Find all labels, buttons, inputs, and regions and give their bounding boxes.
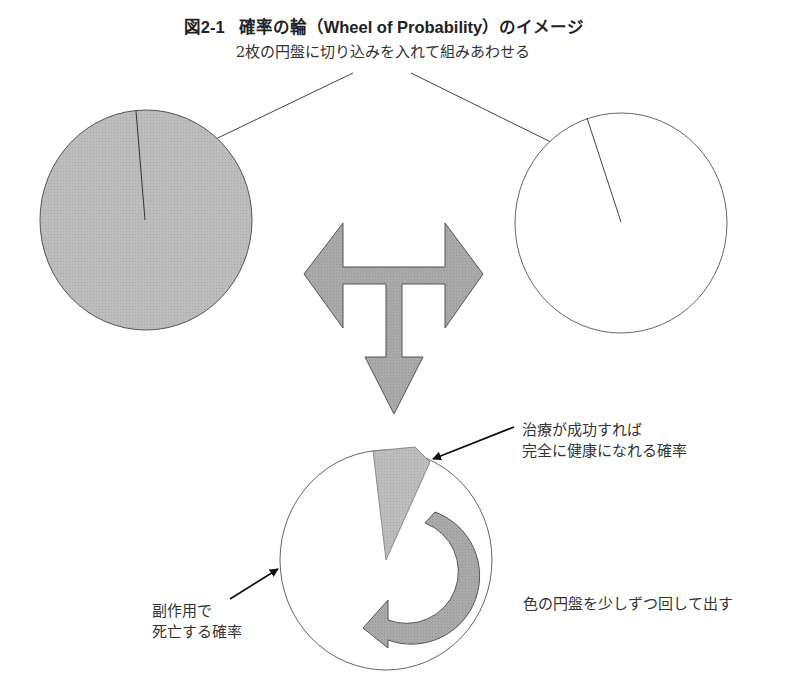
death-label-line2: 死亡する確率: [152, 622, 242, 643]
death-label-line1: 副作用で: [152, 601, 242, 622]
rotate-instruction-label: 色の円盤を少しずつ回して出す: [523, 594, 733, 615]
success-label-line2: 完全に健康になれる確率: [522, 441, 687, 462]
success-label-pointer: [433, 427, 514, 459]
white-disk: [515, 113, 727, 333]
colored-disk: [40, 110, 252, 330]
connector-to-white-disk: [411, 73, 565, 149]
success-label-line1: 治療が成功すれば: [522, 420, 687, 441]
connector-arrows: [199, 73, 565, 149]
death-label-pointer: [230, 569, 278, 599]
success-probability-label: 治療が成功すれば 完全に健康になれる確率: [522, 420, 687, 462]
death-probability-label: 副作用で 死亡する確率: [152, 601, 242, 643]
combined-disk: [280, 447, 492, 670]
connector-to-colored-disk: [199, 73, 353, 147]
combine-t-arrow-icon: [304, 223, 483, 414]
diagram-canvas: 図2-1確率の輪（Wheel of Probability）のイメージ 2枚の円…: [0, 0, 800, 700]
